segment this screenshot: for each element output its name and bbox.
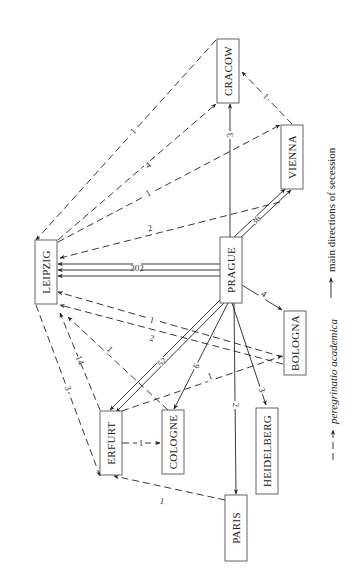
legend: main directions of secession peregrinati… <box>325 147 339 460</box>
legend-peregrinatio: peregrinatio academica <box>327 319 339 460</box>
node-bologna: BOLOGNA <box>284 311 306 375</box>
edge-bologna-to-leipzig: 2 <box>60 305 283 364</box>
edge-line <box>234 303 236 494</box>
edge-line <box>58 104 216 240</box>
node-erfurt: ERFURT <box>100 411 122 475</box>
node-label: BOLOGNA <box>289 315 301 371</box>
legend-peregrinatio-label: peregrinatio academica <box>327 319 339 425</box>
node-cologne: COLOGNE <box>162 410 184 474</box>
edge-count-label: 14 <box>74 354 87 367</box>
legend-secession: main directions of secession <box>325 147 337 298</box>
edge-line <box>36 40 216 240</box>
edge-count-label: 302 <box>130 263 144 273</box>
edge-prague-to-cracow: 3 <box>225 104 235 237</box>
edge-erfurt-to-leipzig: 14 <box>60 313 100 410</box>
node-heidelberg: HEIDELBERG <box>256 408 278 494</box>
node-prague: PRAGUE <box>220 237 242 303</box>
edge-line <box>110 300 220 410</box>
edge-line <box>234 189 285 237</box>
edge-bologna-to-leipzig: 1 <box>58 292 283 357</box>
edge-count-label: 1 <box>139 438 144 448</box>
node-label: PRAGUE <box>225 247 237 293</box>
edge-count-label: 2 <box>231 403 241 408</box>
edge-erfurt-to-bologna: 1 <box>122 356 282 411</box>
edge-line <box>238 190 291 240</box>
node-label: COLOGNE <box>167 415 179 470</box>
edge-prague-to-leipzig: 302 <box>58 263 220 276</box>
node-label: HEIDELBERG <box>261 415 273 487</box>
edge-vienna-to-cracow: 1 <box>242 72 292 124</box>
edge-line <box>122 356 282 411</box>
node-vienna: VIENNA <box>281 125 303 189</box>
edge-leipzig-to-cracow: 4 <box>58 104 216 240</box>
edge-count-label: 36 <box>249 213 263 227</box>
node-paris: PARIS <box>225 495 247 561</box>
node-label: PARIS <box>230 512 242 544</box>
edge-prague-to-heidelberg: 3 <box>232 303 268 405</box>
secession-diagram: 30252366433214121121431111 LEIPZIGPRAGUE… <box>0 0 360 581</box>
edge-count-label: 3 <box>225 132 235 137</box>
edge-line <box>58 292 283 357</box>
edge-line <box>60 305 283 364</box>
node-label: CRACOW <box>222 46 234 96</box>
edge-paris-to-erfurt: 1 <box>114 476 225 507</box>
edge-leipzig-to-erfurt: 3 <box>36 305 100 476</box>
edge-cracow-to-leipzig: 1 <box>36 40 216 240</box>
edge-prague-to-vienna: 36 <box>234 189 291 240</box>
node-leipzig: LEIPZIG <box>35 240 57 304</box>
legend-secession-label: main directions of secession <box>325 147 337 272</box>
node-label: LEIPZIG <box>40 250 52 294</box>
node-label: VIENNA <box>286 135 298 179</box>
node-cracow: CRACOW <box>217 39 239 103</box>
edge-count-label: 52 <box>155 355 168 368</box>
node-label: ERFURT <box>105 421 117 464</box>
edge-prague-to-paris: 2 <box>231 303 241 494</box>
edge-prague-to-bologna: 4 <box>242 285 282 310</box>
edge-erfurt-to-cologne: 1 <box>122 438 160 448</box>
edge-line <box>116 303 224 412</box>
edge-line <box>114 476 225 500</box>
